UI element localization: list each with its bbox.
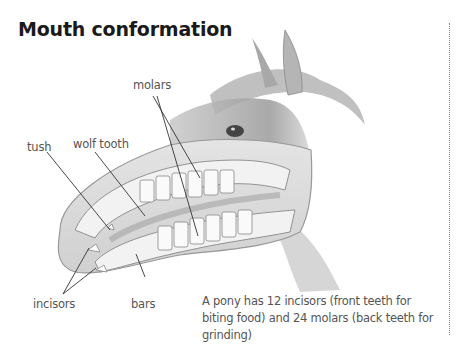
label-molars: molars: [133, 78, 171, 92]
label-wolf-tooth: wolf tooth: [73, 137, 129, 151]
label-bars: bars: [131, 297, 155, 311]
caption-text: A pony has 12 incisors (front teeth for …: [202, 293, 442, 344]
label-tush: tush: [27, 140, 51, 154]
label-incisors: incisors: [33, 297, 75, 311]
dotted-divider: [449, 23, 450, 335]
